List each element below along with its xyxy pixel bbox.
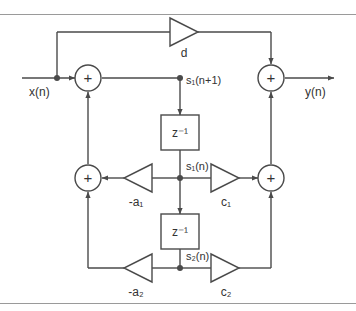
- junction-s1: [177, 175, 183, 181]
- adder-middle-right-symbol: +: [267, 169, 276, 186]
- label-gain-c2: c₂: [221, 285, 232, 299]
- adder-input-symbol: +: [84, 69, 93, 86]
- gain-a2: [124, 254, 152, 282]
- label-output: y(n): [305, 85, 326, 99]
- label-delay-1: z⁻¹: [172, 126, 188, 140]
- label-gain-a1: -a₁: [129, 195, 144, 209]
- junction-s1-next: [177, 75, 183, 81]
- adder-middle-left-symbol: +: [84, 169, 93, 186]
- label-gain-a2: -a₂: [128, 285, 144, 299]
- gain-d: [170, 18, 198, 46]
- label-state-1: s₁(n): [186, 160, 209, 172]
- label-state-next: s₁(n+1): [186, 74, 221, 86]
- label-delay-2: z⁻¹: [172, 225, 188, 239]
- adder-output-symbol: +: [267, 69, 276, 86]
- label-state-2: s₂(n): [186, 250, 209, 262]
- gain-a1: [124, 164, 152, 192]
- junction-s2: [177, 265, 183, 271]
- label-gain-c1: c₁: [221, 195, 231, 209]
- gain-c2: [211, 254, 239, 282]
- junction-input-tap: [54, 75, 60, 81]
- label-input: x(n): [29, 85, 50, 99]
- diagram-canvas: x(n) y(n) s₁(n+1) s₁(n) s₂(n) z⁻¹ z⁻¹ d …: [0, 0, 356, 311]
- label-gain-d: d: [181, 46, 188, 60]
- signal-flow-diagram: x(n) y(n) s₁(n+1) s₁(n) s₂(n) z⁻¹ z⁻¹ d …: [0, 0, 356, 311]
- gain-c1: [211, 164, 239, 192]
